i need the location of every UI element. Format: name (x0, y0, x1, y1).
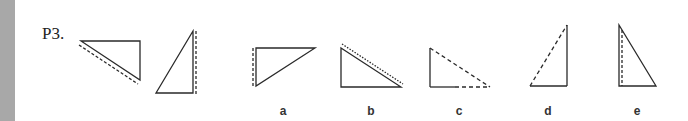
option-c-label[interactable]: c (449, 104, 469, 118)
given-triangle-2 (156, 31, 196, 94)
option-e-triangle[interactable] (619, 25, 656, 86)
triangle-figures (0, 0, 688, 121)
option-b-triangle[interactable] (341, 44, 403, 87)
option-b-label[interactable]: b (361, 104, 381, 118)
option-d-triangle[interactable] (530, 25, 567, 86)
option-d-label[interactable]: d (538, 104, 558, 118)
option-a-triangle[interactable] (253, 48, 315, 86)
option-c-triangle[interactable] (430, 48, 490, 87)
option-a-label[interactable]: a (273, 104, 293, 118)
option-e-label[interactable]: e (627, 104, 647, 118)
given-triangle-1 (79, 41, 140, 84)
